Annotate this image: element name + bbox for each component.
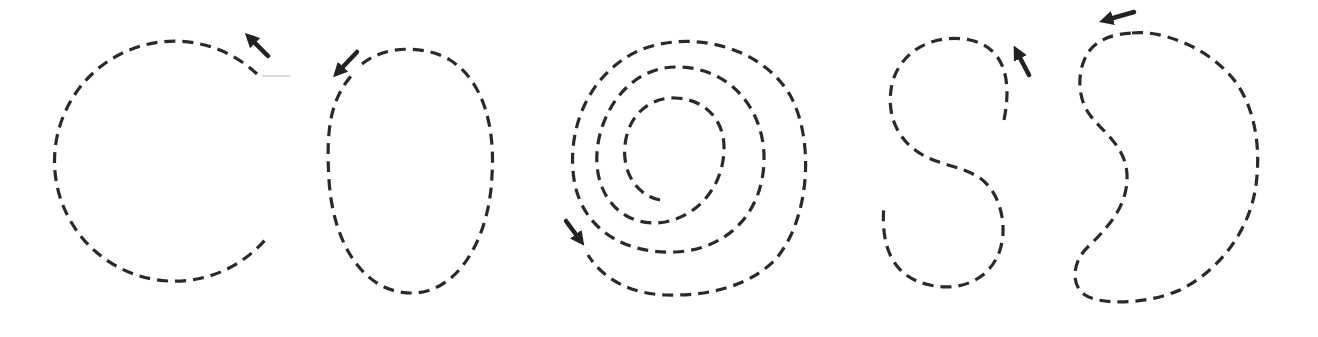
arrow-icon-s-curve xyxy=(1017,52,1029,75)
s-curve-shape xyxy=(883,38,1007,286)
ellipse-shape xyxy=(328,49,492,293)
arrow-icon-kidney xyxy=(1106,12,1134,20)
figure-canvas: Five dashed stroke-path shapes, each wit… xyxy=(0,0,1318,337)
arrow-icon-c-arc xyxy=(250,38,268,56)
arrow-icon-ellipse xyxy=(338,52,357,72)
spiral-shape xyxy=(573,41,806,295)
c-arc-shape xyxy=(55,41,265,281)
kidney-shape xyxy=(1075,33,1258,302)
arrow-icon-spiral xyxy=(566,221,580,240)
